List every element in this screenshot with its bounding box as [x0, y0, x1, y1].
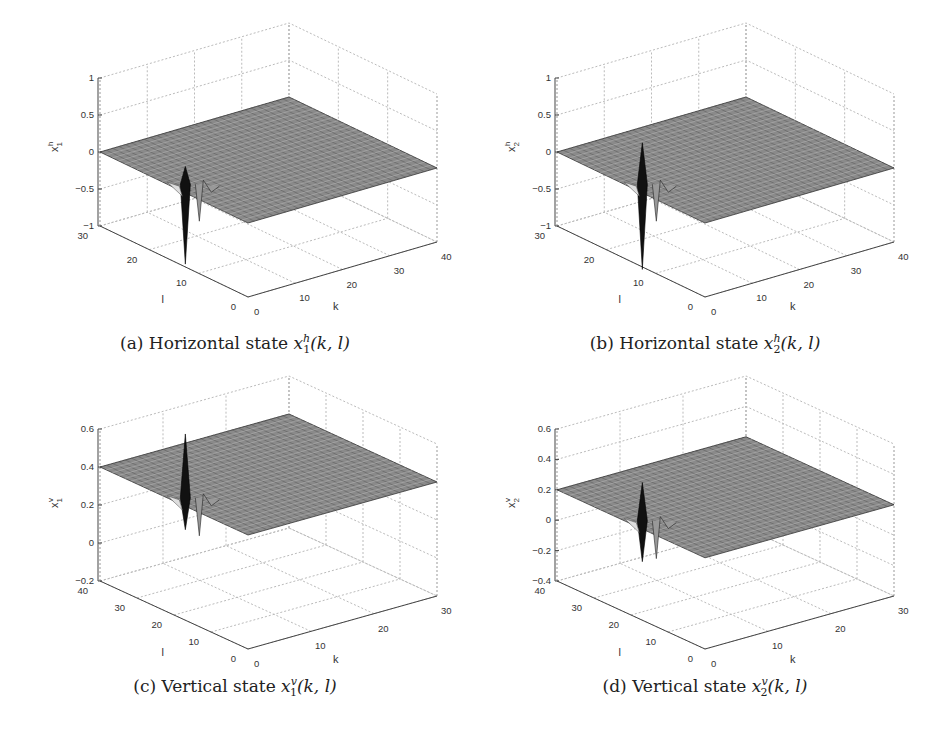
l-tick-label: 0: [231, 653, 236, 664]
surface-mesh: [557, 437, 894, 562]
subplot-caption: (d) Vertical state xv2(k, l): [470, 675, 939, 699]
l-axis-label: l: [618, 293, 620, 305]
z-tick-label: 0.4: [538, 453, 551, 464]
k-tick-label: 0: [254, 658, 259, 669]
l-axis-label: l: [161, 646, 163, 658]
l-tick-label: 20: [584, 254, 595, 265]
subplot-caption: (a) Horizontal state xh1(k, l): [0, 332, 470, 356]
surface-mesh: [100, 414, 437, 536]
k-tick-label: 10: [772, 640, 783, 651]
l-tick-label: 30: [534, 230, 545, 241]
k-tick-label: 40: [898, 251, 909, 262]
z-axis-label: x1v: [46, 498, 64, 509]
k-tick-label: 20: [804, 279, 815, 290]
z-tick-label: 0.4: [81, 461, 94, 472]
z-axis-label: x2h: [503, 142, 521, 153]
l-tick-label: 10: [176, 277, 187, 288]
surface-mesh: [100, 97, 437, 264]
l-tick-label: 10: [645, 636, 656, 647]
z-tick-label: 0: [546, 146, 551, 157]
z-tick-label: 0.6: [81, 423, 94, 434]
k-tick-label: 20: [378, 623, 389, 634]
l-tick-label: 20: [608, 619, 619, 630]
z-tick-label: 0: [89, 146, 94, 157]
l-tick-label: 0: [231, 301, 236, 312]
k-tick-label: 0: [711, 306, 716, 317]
k-tick-label: 10: [756, 292, 767, 303]
k-tick-label: 10: [315, 640, 326, 651]
subplot-caption: (c) Vertical state xv1(k, l): [0, 675, 470, 699]
l-tick-label: 30: [114, 602, 125, 613]
surface-mesh: [557, 97, 894, 269]
z-tick-label: 0.6: [538, 423, 551, 434]
k-tick-label: 0: [254, 306, 259, 317]
l-tick-label: 10: [188, 636, 199, 647]
subplot-b: 10.50−0.5−10102030010203040klx2h(b) Hori…: [470, 0, 939, 375]
subplot-d: 0.60.40.20−0.2−0.40102030400102030klx2v(…: [470, 375, 939, 750]
k-tick-label: 20: [835, 623, 846, 634]
k-tick-label: 0: [711, 658, 716, 669]
k-tick-label: 20: [347, 279, 358, 290]
spike-peak: [180, 166, 190, 264]
k-axis-label: k: [333, 300, 339, 312]
k-tick-label: 30: [394, 265, 405, 276]
z-tick-label: 0: [546, 514, 551, 525]
l-tick-label: 20: [151, 619, 162, 630]
subplot-a: 10.50−0.5−10102030010203040klx1h(a) Hori…: [0, 0, 470, 375]
z-tick-label: −0.5: [532, 183, 551, 194]
k-tick-label: 30: [851, 265, 862, 276]
z-tick-label: 0.5: [538, 109, 551, 120]
k-axis-label: k: [333, 653, 339, 665]
z-tick-label: 1: [89, 72, 94, 83]
z-tick-label: 0.2: [81, 499, 94, 510]
k-axis-label: k: [790, 300, 796, 312]
z-tick-label: −0.2: [532, 545, 551, 556]
l-tick-label: 40: [534, 585, 545, 596]
k-axis-label: k: [790, 653, 796, 665]
subplot-caption: (b) Horizontal state xh2(k, l): [470, 332, 939, 356]
z-tick-label: −0.5: [75, 183, 94, 194]
k-tick-label: 40: [441, 251, 452, 262]
subplot-c: 0.60.40.20−0.20102030400102030klx1v(c) V…: [0, 375, 470, 750]
z-axis-label: x2v: [503, 498, 521, 509]
z-tick-label: 1: [546, 72, 551, 83]
z-tick-label: 0: [89, 537, 94, 548]
l-tick-label: 0: [688, 653, 693, 664]
k-tick-label: 30: [441, 605, 452, 616]
k-tick-label: 30: [898, 605, 909, 616]
k-tick-label: 10: [299, 292, 310, 303]
l-tick-label: 20: [127, 254, 138, 265]
l-tick-label: 10: [633, 277, 644, 288]
l-tick-label: 40: [77, 585, 88, 596]
l-tick-label: 30: [571, 602, 582, 613]
z-axis-label: x1h: [46, 142, 64, 153]
l-tick-label: 30: [77, 230, 88, 241]
l-tick-label: 0: [688, 301, 693, 312]
z-tick-label: 0.5: [81, 109, 94, 120]
l-axis-label: l: [161, 293, 163, 305]
l-axis-label: l: [618, 646, 620, 658]
z-tick-label: 0.2: [538, 484, 551, 495]
